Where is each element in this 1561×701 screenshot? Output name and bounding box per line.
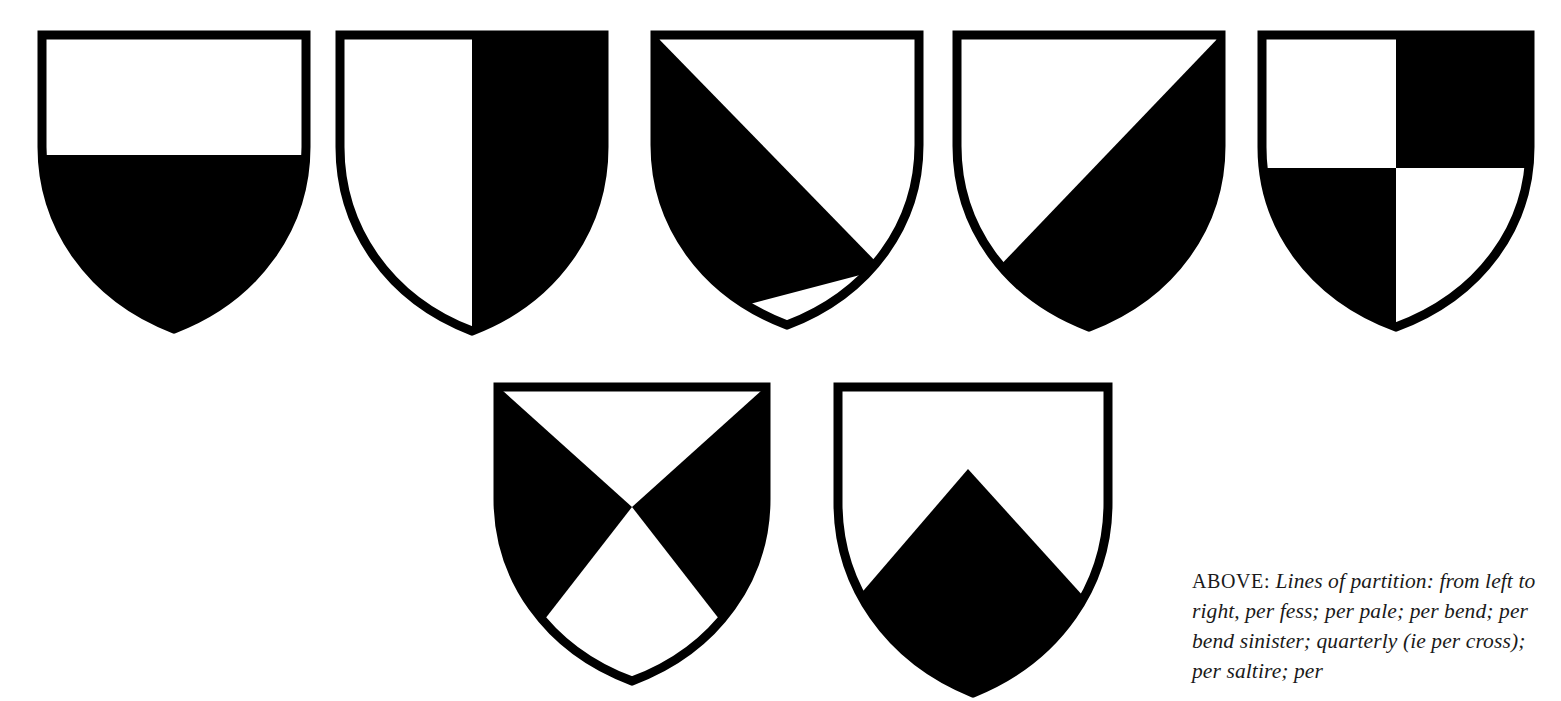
shield-quarterly [1256, 29, 1536, 333]
quarter-4 [1396, 168, 1536, 333]
shield-per-bend [649, 29, 925, 329]
shield-per-fess [36, 29, 312, 335]
shield-per-bend-icon [649, 29, 925, 329]
field-lower [36, 155, 312, 335]
shield-per-bend-sinister [951, 29, 1227, 333]
shield-per-pale-icon [334, 29, 610, 337]
shield-per-saltire [492, 381, 772, 687]
quarter-2 [1396, 29, 1536, 168]
shield-per-saltire-icon [492, 381, 772, 687]
quarter-3 [1256, 168, 1396, 333]
caption-lead-label: ABOVE: [1192, 570, 1270, 592]
shield-per-fess-icon [36, 29, 312, 335]
shield-per-chevron [832, 381, 1114, 701]
shield-per-chevron-icon [832, 381, 1114, 701]
shield-per-pale [334, 29, 610, 337]
shield-per-bend-sinister-icon [951, 29, 1227, 333]
figure-caption: ABOVE: Lines of partition: from left to … [1192, 566, 1552, 686]
quarter-1 [1256, 29, 1396, 168]
shield-quarterly-icon [1256, 29, 1536, 333]
